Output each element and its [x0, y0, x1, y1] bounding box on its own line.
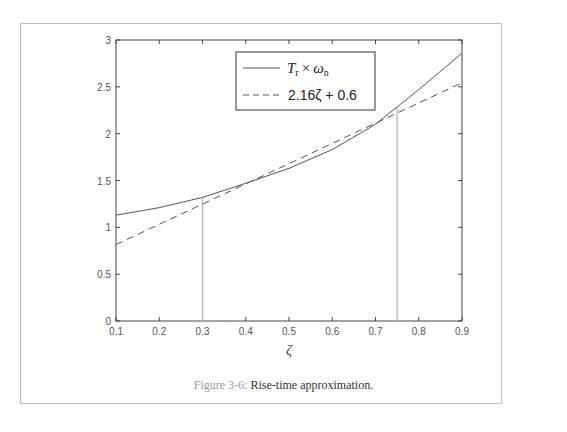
chart: 0.10.20.30.40.50.60.70.80.900.511.522.53… [0, 0, 567, 432]
caption-text: Rise-time approximation. [248, 378, 374, 392]
figure-label: Figure 3-6: [194, 378, 248, 392]
annotation-lines [203, 107, 398, 321]
svg-text:0.9: 0.9 [455, 326, 469, 337]
legend: Tr×ωn 2.16ζ + 0.6 [236, 52, 375, 110]
svg-text:0.6: 0.6 [325, 326, 339, 337]
svg-text:0.4: 0.4 [239, 326, 253, 337]
svg-text:2.5: 2.5 [97, 82, 111, 93]
svg-text:3: 3 [105, 35, 111, 46]
svg-text:0: 0 [105, 316, 111, 327]
figure-caption: Figure 3-6: Rise-time approximation. [0, 378, 567, 393]
svg-text:0.5: 0.5 [282, 326, 296, 337]
svg-text:ζ: ζ [286, 342, 293, 358]
legend-dashed-label: 2.16ζ + 0.6 [288, 87, 357, 103]
svg-text:Tr×ωn: Tr×ωn [287, 60, 329, 78]
svg-text:2: 2 [105, 129, 111, 140]
svg-text:0.2: 0.2 [152, 326, 166, 337]
svg-text:0.1: 0.1 [109, 326, 123, 337]
svg-text:0.8: 0.8 [412, 326, 426, 337]
svg-text:1.5: 1.5 [97, 176, 111, 187]
svg-text:0.5: 0.5 [97, 269, 111, 280]
svg-text:0.7: 0.7 [369, 326, 383, 337]
svg-text:1: 1 [105, 222, 111, 233]
svg-text:0.3: 0.3 [196, 326, 210, 337]
